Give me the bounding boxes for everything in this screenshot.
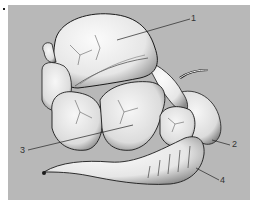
label-3: 3 [20, 146, 25, 155]
leader-line-4 [196, 168, 219, 180]
label-1: 1 [191, 14, 196, 23]
label-4: 4 [220, 176, 225, 185]
label-2: 2 [232, 140, 237, 149]
